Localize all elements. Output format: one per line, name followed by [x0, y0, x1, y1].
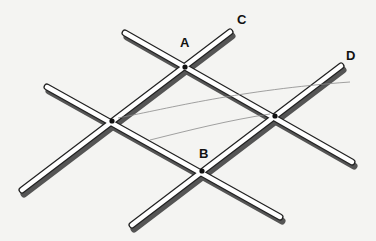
- label-b: B: [199, 146, 208, 161]
- rod-outlines: [22, 32, 352, 225]
- label-c: C: [237, 12, 246, 27]
- label-d: D: [346, 48, 355, 63]
- label-a: A: [180, 35, 189, 50]
- intersection-points: [109, 64, 277, 173]
